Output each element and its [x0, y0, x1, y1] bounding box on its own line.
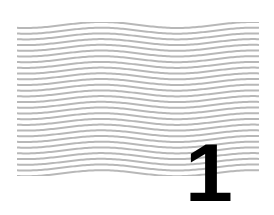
number-one-glyph: 1: [185, 132, 231, 214]
